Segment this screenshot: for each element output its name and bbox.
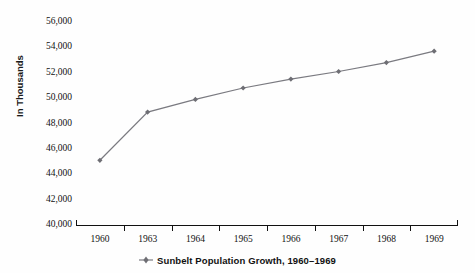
data-point-marker — [384, 60, 389, 65]
y-axis-tick-label: 56,000 — [20, 16, 72, 26]
y-axis-tick-label: 46,000 — [20, 143, 72, 153]
x-axis-tick-label: 1960 — [76, 234, 124, 244]
x-axis-tick — [124, 225, 125, 231]
x-axis-tick — [363, 225, 364, 231]
y-axis-tick-label: 44,000 — [20, 168, 72, 178]
data-point-marker — [336, 69, 341, 74]
x-axis-tick — [267, 225, 268, 231]
data-point-marker — [288, 76, 293, 81]
x-axis-tick — [172, 225, 173, 231]
series-markers — [97, 49, 436, 163]
x-axis-tick — [315, 225, 316, 231]
x-axis-tick — [219, 225, 220, 231]
y-axis-tick-label: 52,000 — [20, 67, 72, 77]
x-axis-tick-label: 1969 — [410, 234, 458, 244]
x-axis-tick-labels: 19601963196419651966196719681969 — [76, 234, 458, 248]
y-axis-tick-label: 48,000 — [20, 118, 72, 128]
y-axis-tick-label: 42,000 — [20, 194, 72, 204]
x-axis-tick — [410, 225, 411, 231]
legend-marker-icon — [139, 255, 153, 265]
x-axis-tick-label: 1964 — [172, 234, 220, 244]
y-axis-tick-label: 40,000 — [20, 219, 72, 229]
plot-area — [76, 22, 458, 225]
y-axis-tick-labels: 40,00042,00044,00046,00048,00050,00052,0… — [16, 0, 72, 273]
data-series-svg — [76, 22, 458, 225]
x-axis-tick-label: 1963 — [124, 234, 172, 244]
y-axis-tick-label: 54,000 — [20, 41, 72, 51]
legend-entry-label: Sunbelt Population Growth, 1960–1969 — [157, 255, 336, 266]
data-point-marker — [193, 97, 198, 102]
x-axis-tick-label: 1968 — [363, 234, 411, 244]
data-point-marker — [241, 85, 246, 90]
y-axis-tick-label: 50,000 — [20, 92, 72, 102]
x-axis-tick — [76, 220, 77, 226]
data-point-marker — [432, 49, 437, 54]
series-line — [100, 51, 434, 160]
x-axis-tick-label: 1965 — [219, 234, 267, 244]
chart-legend: Sunbelt Population Growth, 1960–1969 — [0, 252, 475, 268]
x-axis-tick-label: 1967 — [315, 234, 363, 244]
x-axis-tick — [457, 220, 458, 226]
x-axis-tick-label: 1966 — [267, 234, 315, 244]
line-chart: In Thousands 40,00042,00044,00046,00048,… — [0, 0, 475, 273]
x-axis — [76, 225, 458, 233]
